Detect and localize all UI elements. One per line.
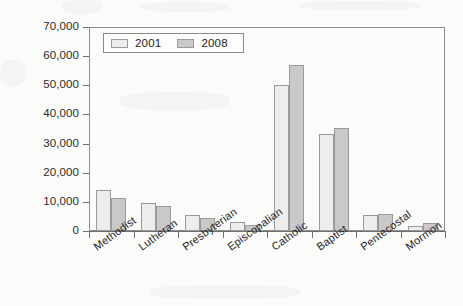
x-axis-tick <box>312 232 313 238</box>
x-axis-tick <box>356 232 357 238</box>
bar-catholic-2008 <box>289 65 304 231</box>
legend-label-2001: 2001 <box>135 37 161 49</box>
y-axis-tick-label-wrap: 60,000 <box>0 49 79 61</box>
legend-swatch-2008-icon <box>177 39 194 48</box>
y-axis-tick-label: 70,000 <box>3 20 79 32</box>
y-axis-tick-label: 60,000 <box>3 49 79 61</box>
legend-item-2001: 2001 <box>111 37 161 49</box>
scan-artifact <box>62 0 102 14</box>
y-axis-tick-label: 50,000 <box>3 78 79 90</box>
x-axis-tick <box>134 232 135 238</box>
x-axis-tick <box>89 232 90 238</box>
y-axis-tick-label-wrap: 0 <box>0 224 79 236</box>
bar-baptist-2001 <box>319 134 334 231</box>
chart-legend: 2001 2008 <box>103 33 244 53</box>
y-axis-tick-label-wrap: 10,000 <box>0 195 79 207</box>
y-axis-tick-label-wrap: 70,000 <box>0 20 79 32</box>
x-axis-tick <box>401 232 402 238</box>
y-axis-tick-label: 10,000 <box>3 195 79 207</box>
legend-item-2008: 2008 <box>177 37 227 49</box>
y-axis-tick-label-wrap: 20,000 <box>0 166 79 178</box>
y-axis-tick-label-wrap: 50,000 <box>0 78 79 90</box>
y-axis-tick-label-wrap: 40,000 <box>0 107 79 119</box>
y-axis-tick-label: 40,000 <box>3 107 79 119</box>
scan-artifact <box>300 1 420 10</box>
bar-chart: 70,00060,00050,00040,00030,00020,00010,0… <box>0 0 463 306</box>
bars-layer <box>89 27 445 231</box>
bar-baptist-2008 <box>334 128 349 231</box>
x-axis-tick <box>223 232 224 238</box>
y-axis-tick-label: 0 <box>3 224 79 236</box>
scan-artifact <box>150 285 300 299</box>
bar-methodist-2001 <box>96 190 111 231</box>
x-axis-tick <box>267 232 268 238</box>
x-axis-tick <box>445 232 446 238</box>
y-axis-tick-label: 20,000 <box>3 166 79 178</box>
y-axis-tick-label: 30,000 <box>3 137 79 149</box>
scan-artifact <box>140 2 230 12</box>
legend-label-2008: 2008 <box>201 37 227 49</box>
bar-lutheran-2001 <box>141 203 156 231</box>
legend-swatch-2001-icon <box>111 39 128 48</box>
x-axis-tick <box>178 232 179 238</box>
y-axis-tick-label-wrap: 30,000 <box>0 137 79 149</box>
